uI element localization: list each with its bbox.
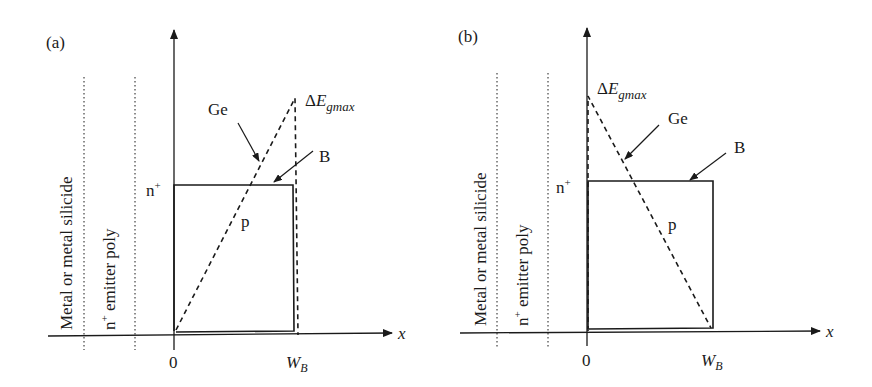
- wb-tick-label: WB: [286, 353, 308, 375]
- emitter-poly-label: n+ emitter poly: [511, 224, 532, 326]
- ge-arrow: [238, 123, 259, 161]
- boron-arrow: [274, 151, 313, 182]
- boron-profile: [174, 185, 294, 332]
- x-axis-label: x: [397, 324, 406, 343]
- delta-eg-max-label: ΔEgmax: [305, 91, 355, 114]
- wb-tick-label: WB: [701, 351, 723, 373]
- origin-tick-label: 0: [169, 353, 178, 372]
- ge-profile: [176, 98, 298, 335]
- panel-b: (b) Metal or metal silicide n+ emitter p…: [458, 27, 834, 373]
- boron-label: B: [319, 147, 330, 166]
- boron-label: B: [734, 138, 745, 157]
- delta-eg-max-label: ΔEgmax: [597, 79, 647, 102]
- x-axis: [460, 331, 820, 333]
- p-label: p: [668, 215, 677, 234]
- x-axis-label: x: [825, 322, 834, 341]
- emitter-poly-label: n+ emitter poly: [98, 228, 119, 330]
- n-plus-label: n+: [556, 176, 571, 197]
- figure-canvas: (a) Metal or metal silicide n+ emitter p…: [0, 0, 872, 387]
- boron-profile: [588, 181, 713, 329]
- x-axis: [48, 333, 392, 336]
- p-label: p: [241, 212, 250, 231]
- ge-arrow: [625, 125, 659, 159]
- panel-b-label: (b): [458, 27, 478, 46]
- origin-tick-label: 0: [582, 351, 591, 370]
- metal-silicide-label: Metal or metal silicide: [57, 177, 76, 330]
- n-plus-label: n+: [146, 179, 161, 200]
- ge-profile: [588, 96, 711, 331]
- ge-label: Ge: [208, 100, 228, 119]
- panel-a: (a) Metal or metal silicide n+ emitter p…: [46, 30, 406, 375]
- panel-a-label: (a): [46, 33, 65, 52]
- metal-silicide-label: Metal or metal silicide: [471, 173, 490, 326]
- boron-arrow: [690, 153, 726, 180]
- ge-label: Ge: [668, 109, 688, 128]
